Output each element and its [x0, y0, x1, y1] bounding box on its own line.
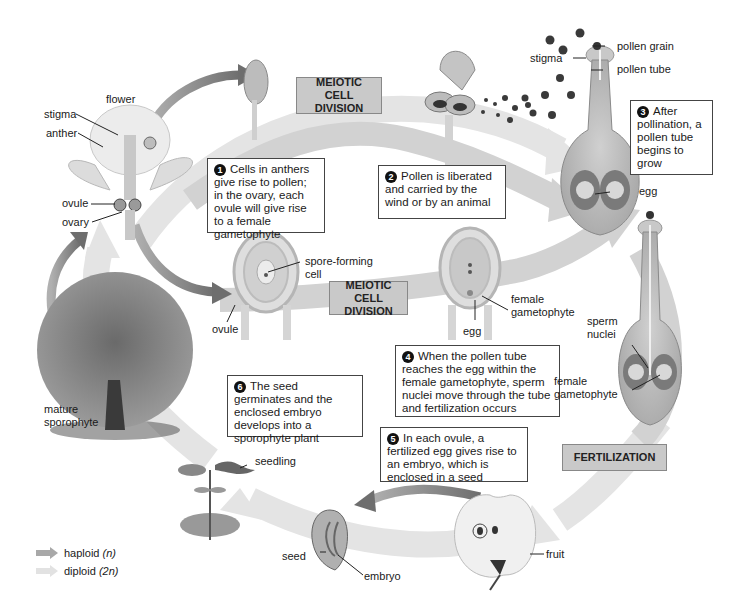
label-seedling: seedling — [255, 455, 296, 468]
diploid-arrow-icon — [36, 565, 58, 577]
label-embryo: embryo — [364, 570, 401, 583]
label-stigma-pistil: stigma — [530, 52, 562, 65]
legend-diploid: diploid (2n) — [36, 562, 118, 580]
step-number-badge: 6 — [234, 381, 246, 393]
haploid-arrow-icon — [36, 547, 58, 559]
label-pollen-tube: pollen tube — [617, 63, 671, 76]
label-fruit: fruit — [546, 548, 564, 561]
label-ovary: ovary — [62, 216, 89, 229]
step-3-callout: 3After pollination, a pollen tube begins… — [630, 100, 713, 175]
label-ovule-middle: ovule — [212, 323, 238, 336]
label-flower: flower — [106, 93, 135, 106]
fruit-illustration — [455, 495, 536, 590]
label-female-gametophyte-right: female gametophyte — [554, 375, 618, 401]
life-cycle-diagram: MEIOTIC CELL DIVISION MEIOTIC CELL DIVIS… — [0, 0, 732, 611]
label-egg-middle: egg — [463, 325, 481, 338]
pollen-grains — [481, 29, 585, 124]
step-number-badge: 2 — [385, 171, 397, 183]
label-female-gametophyte-middle: female gametophyte — [511, 293, 575, 319]
legend: haploid (n) diploid (2n) — [36, 544, 118, 580]
meiotic-cell-division-box-middle: MEIOTIC CELL DIVISION — [329, 281, 408, 315]
seed-illustration — [312, 510, 348, 570]
step-2-callout: 2Pollen is liberated and carried by the … — [378, 165, 506, 219]
step-number-badge: 4 — [402, 351, 414, 363]
label-sperm-nuclei: sperm nuclei — [587, 315, 618, 341]
meiotic-cell-division-box-top: MEIOTIC CELL DIVISION — [296, 77, 382, 114]
ovule-illustration-1 — [234, 232, 298, 340]
step-number-badge: 5 — [387, 433, 399, 445]
fertilization-box: FERTILIZATION — [562, 444, 667, 471]
label-stigma-flower: stigma — [44, 108, 76, 121]
label-anther: anther — [46, 127, 77, 140]
label-mature-sporophyte: mature sporophyte — [44, 403, 98, 429]
label-egg-pistil: egg — [639, 185, 657, 198]
step-6-callout: 6The seed germinates and the enclosed em… — [227, 375, 363, 437]
step-4-callout: 4When the pollen tube reaches the egg wi… — [395, 345, 560, 417]
step-number-badge: 1 — [214, 164, 226, 176]
label-spore-forming-cell: spore-forming cell — [305, 255, 373, 281]
label-seed: seed — [282, 550, 306, 563]
step-1-callout: 1Cells in anthers give rise to pollen; i… — [207, 158, 325, 233]
legend-haploid: haploid (n) — [36, 544, 118, 562]
step-5-callout: 5In each ovule, a fertilized egg gives r… — [380, 427, 528, 482]
ovule-illustration-2 — [440, 228, 500, 340]
label-ovule-flower: ovule — [62, 197, 88, 210]
step-number-badge: 3 — [637, 106, 649, 118]
label-pollen-grain: pollen grain — [617, 40, 674, 53]
